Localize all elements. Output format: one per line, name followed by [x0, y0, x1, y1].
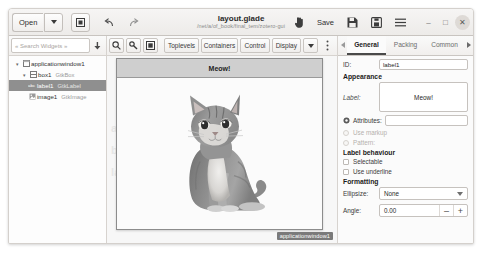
tree-item-image1[interactable]: image1 GtkImage: [9, 91, 106, 102]
tab-packing[interactable]: Packing: [386, 35, 425, 55]
tab-scroll-right-button[interactable]: [464, 35, 473, 55]
svg-text:abc: abc: [28, 83, 36, 88]
window-icon: [21, 60, 31, 67]
search-input[interactable]: « Search Widgets »: [11, 38, 90, 53]
use-markup-row[interactable]: Use markup: [343, 129, 468, 136]
preview-button[interactable]: [143, 38, 158, 53]
angle-value[interactable]: 0.00: [380, 205, 439, 216]
new-window-icon: [76, 18, 85, 27]
open-button[interactable]: Open: [12, 13, 43, 32]
save-as-button[interactable]: [365, 13, 388, 32]
use-underline-label: Use underline: [353, 168, 392, 175]
angle-label: Angle:: [343, 207, 379, 214]
tab-scroll-left-button[interactable]: [338, 35, 347, 55]
box-icon: [28, 71, 38, 78]
minimize-button[interactable]: –: [421, 15, 436, 30]
use-markup-label: Use markup: [353, 129, 387, 136]
preview-image-widget[interactable]: [117, 78, 322, 229]
tree-item-label: box1: [38, 71, 51, 78]
save-button[interactable]: Save: [311, 13, 340, 32]
image-icon: [27, 93, 37, 100]
undo-button[interactable]: [98, 13, 121, 32]
angle-decrement-button[interactable]: –: [439, 205, 453, 216]
main-menu-button[interactable]: [389, 13, 412, 32]
new-window-button[interactable]: [71, 13, 90, 32]
pattern-row[interactable]: Pattern:: [343, 139, 468, 146]
tab-general[interactable]: General: [347, 35, 386, 55]
properties-list: ID: label1 Appearance Label: Meow!: [338, 56, 473, 243]
search-dropdown-button[interactable]: [90, 42, 104, 50]
pattern-label: Pattern:: [353, 139, 375, 146]
ellipsize-row: Ellipsize: None: [343, 187, 468, 200]
design-area: Toplevels Containers Control Display: [107, 36, 338, 243]
maximize-button[interactable]: □: [438, 15, 453, 30]
attributes-field[interactable]: [385, 115, 468, 126]
ellipsize-value: None: [384, 190, 399, 197]
selectable-row[interactable]: Selectable: [343, 158, 468, 165]
preview-label-widget[interactable]: Meow!: [117, 59, 322, 78]
id-label: ID:: [343, 61, 379, 68]
attributes-row: Attributes:: [343, 115, 468, 126]
close-button[interactable]: ✕: [455, 15, 470, 30]
glade-window: Open: [8, 8, 474, 244]
open-dropdown-button[interactable]: [44, 13, 63, 32]
use-underline-row[interactable]: Use underline: [343, 168, 468, 175]
use-underline-checkbox[interactable]: [343, 169, 349, 175]
design-canvas[interactable]: applicationwindow1 box1 label1 image1 Me…: [107, 56, 337, 243]
window-body: « Search Widgets » ▾: [9, 36, 473, 243]
tree-item-label1[interactable]: abc label1 GtkLabel: [9, 80, 106, 91]
arrow-down-icon: [94, 42, 101, 50]
window-title: layout.glade: [218, 14, 265, 23]
gear-icon[interactable]: [343, 117, 350, 124]
hamburger-menu-icon: [395, 18, 406, 27]
more-groups-button[interactable]: [303, 38, 318, 53]
group-control-button[interactable]: Control: [240, 38, 269, 53]
formatting-heading: Formatting: [343, 178, 468, 185]
tab-common[interactable]: Common: [425, 35, 464, 55]
selectable-label: Selectable: [353, 158, 382, 165]
use-markup-checkbox[interactable]: [343, 130, 349, 136]
tree-item-class: GtkImage: [61, 94, 86, 100]
group-containers-button[interactable]: Containers: [201, 38, 239, 53]
tree-item-label: applicationwindow1: [31, 60, 85, 67]
select-pointer-icon: [129, 41, 138, 50]
tree-item-class: GtkLabel: [58, 83, 81, 89]
preview-window[interactable]: Meow!: [116, 58, 323, 230]
status-badge: applicationwindow1: [277, 232, 333, 240]
tree-item-applicationwindow1[interactable]: ▾ applicationwindow1: [9, 58, 106, 69]
pointer-button[interactable]: [288, 13, 310, 32]
pattern-checkbox[interactable]: [343, 140, 349, 146]
preview-icon: [146, 41, 155, 50]
search-widgets-button[interactable]: [109, 38, 124, 53]
undo-icon: [104, 18, 115, 27]
toolbar-overflow-button[interactable]: [320, 38, 335, 53]
header-left-controls: Open: [12, 13, 145, 32]
tree-expander[interactable]: ▾: [13, 61, 21, 67]
properties-tabs: General Packing Common: [338, 36, 473, 56]
save-icon-button[interactable]: [341, 13, 364, 32]
ellipsize-select[interactable]: None: [379, 187, 468, 200]
magnifier-icon: [112, 41, 121, 50]
tree-item-box1[interactable]: ▾ box1 GtkBox: [9, 69, 106, 80]
attributes-label: Attributes:: [353, 117, 382, 124]
pointer-hand-icon: [294, 16, 304, 28]
label-icon: abc: [27, 83, 37, 88]
ellipsize-label: Ellipsize:: [343, 190, 379, 197]
id-input[interactable]: label1: [379, 59, 468, 70]
angle-increment-button[interactable]: +: [453, 205, 467, 216]
redo-button[interactable]: [122, 13, 145, 32]
tree-expander[interactable]: ▾: [20, 72, 28, 78]
header-bar: Open: [9, 9, 473, 36]
selectable-checkbox[interactable]: [343, 159, 349, 165]
widget-toolbar: Toplevels Containers Control Display: [107, 36, 337, 56]
search-row: « Search Widgets »: [9, 36, 106, 56]
group-display-button[interactable]: Display: [272, 38, 301, 53]
group-toplevels-button[interactable]: Toplevels: [164, 38, 198, 53]
label-row: Label: Meow!: [343, 82, 468, 112]
angle-stepper[interactable]: 0.00 – +: [379, 204, 468, 217]
tree-item-label: image1: [37, 93, 57, 100]
chevron-down-icon: [457, 192, 463, 196]
save-disk-icon: [347, 17, 358, 28]
label-textarea[interactable]: Meow!: [379, 82, 468, 112]
select-pointer-button[interactable]: [126, 38, 141, 53]
